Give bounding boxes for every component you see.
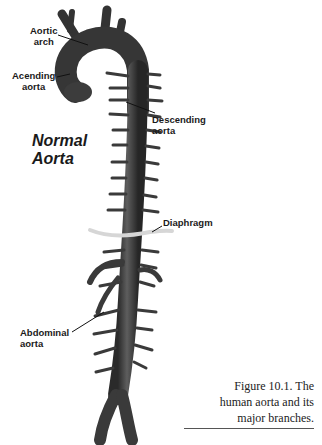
right-iliac [122,395,132,440]
aortic-root [64,82,92,102]
label-abdominal-aorta: Abdominal aorta [20,327,69,349]
label-diaphragm: Diaphragm [163,217,213,228]
label-descending-aorta: Descending aorta [152,114,206,136]
label-aortic-arch: Aortic arch [30,25,57,47]
figure-caption: Figure 10.1. The human aorta and its maj… [184,378,314,426]
figure-title: Normal Aorta [32,132,87,168]
label-ascending-aorta: Acending aorta [12,70,55,92]
caption-rule [184,428,314,429]
aorta-figure: Aortic arch Acending aorta Descending ao… [0,0,322,445]
left-iliac [100,395,116,440]
